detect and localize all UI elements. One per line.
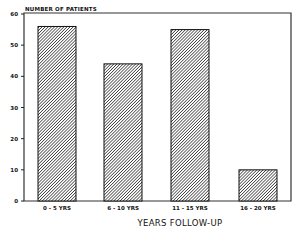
y-tick-label: 40 (10, 73, 18, 79)
x-tick-label: 0 - 5 YRS (43, 205, 71, 211)
y-tick-label: 30 (10, 105, 18, 111)
y-axis: 0102030405060 (10, 11, 24, 204)
x-tick-label: 16 - 20 YRS (240, 205, 276, 211)
y-tick-label: 20 (10, 136, 18, 142)
bar (38, 26, 76, 201)
y-tick-label: 10 (10, 167, 18, 173)
plot-area: 0102030405060 0 - 5 YRS6 - 10 YRS11 - 15… (0, 0, 300, 237)
bar (104, 64, 142, 201)
x-axis-label: YEARS FOLLOW-UP (0, 218, 300, 228)
x-axis: 0 - 5 YRS6 - 10 YRS11 - 15 YRS16 - 20 YR… (43, 205, 276, 211)
y-tick-label: 0 (14, 198, 18, 204)
x-tick-label: 11 - 15 YRS (172, 205, 208, 211)
y-tick-label: 50 (10, 42, 18, 48)
x-tick-label: 6 - 10 YRS (107, 205, 139, 211)
bar (171, 30, 209, 201)
bars (38, 26, 277, 201)
bar-chart: NUMBER OF PATIENTS 0102030405060 0 - 5 Y… (0, 0, 300, 237)
y-tick-label: 60 (10, 11, 18, 17)
bar (239, 170, 277, 201)
